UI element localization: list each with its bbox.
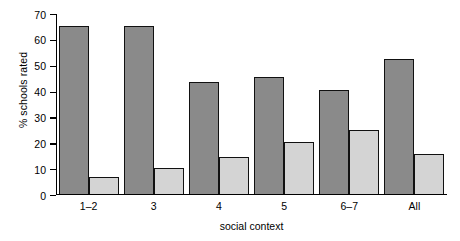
y-axis-title: % schools rated <box>17 15 29 165</box>
bar-chart: % schools rated 706050403020100 1–23456–… <box>0 0 460 241</box>
bar-dark-series-2 <box>189 82 219 193</box>
y-axis-tick-label: 40 <box>34 86 46 98</box>
x-axis-tick-label-1: 3 <box>121 200 186 212</box>
bar-light-series-2 <box>219 157 249 193</box>
bar-group <box>252 14 317 194</box>
plot-area: 706050403020100 <box>56 14 447 195</box>
bar-light-series-5 <box>414 154 444 194</box>
bar-dark-series-1 <box>124 26 154 194</box>
bar-light-series-3 <box>284 142 314 194</box>
y-axis-tick-label: 30 <box>34 112 46 124</box>
bar-group <box>317 14 382 194</box>
y-axis-tick-label: 20 <box>34 138 46 150</box>
bar-group <box>56 14 121 194</box>
y-axis-tick-label: 50 <box>34 60 46 72</box>
x-axis-tick-labels: 1–23456–7All <box>56 200 447 212</box>
bar-light-series-4 <box>349 130 379 193</box>
bar-light-series-1 <box>154 168 184 194</box>
bar-groups <box>56 14 447 194</box>
y-axis-tick-label: 70 <box>34 9 46 21</box>
x-axis-line <box>56 194 447 195</box>
bar-dark-series-5 <box>384 59 414 193</box>
x-axis-title: social context <box>56 220 447 232</box>
y-axis-tick-label: 0 <box>40 190 46 202</box>
x-axis-tick-label-5: All <box>382 200 447 212</box>
bar-group <box>121 14 186 194</box>
bar-group <box>186 14 251 194</box>
bar-light-series-0 <box>89 177 119 194</box>
x-axis-tick-label-2: 4 <box>186 200 251 212</box>
x-axis-tick-label-0: 1–2 <box>56 200 121 212</box>
x-axis-tick-label-3: 5 <box>252 200 317 212</box>
y-axis-tick-label: 10 <box>34 164 46 176</box>
x-axis-tick-label-4: 6–7 <box>317 200 382 212</box>
bar-group <box>382 14 447 194</box>
y-axis-tick: 0 <box>50 195 56 196</box>
bar-dark-series-0 <box>59 26 89 194</box>
bar-dark-series-3 <box>254 77 284 193</box>
y-axis-tick-label: 60 <box>34 34 46 46</box>
bar-dark-series-4 <box>319 90 349 193</box>
